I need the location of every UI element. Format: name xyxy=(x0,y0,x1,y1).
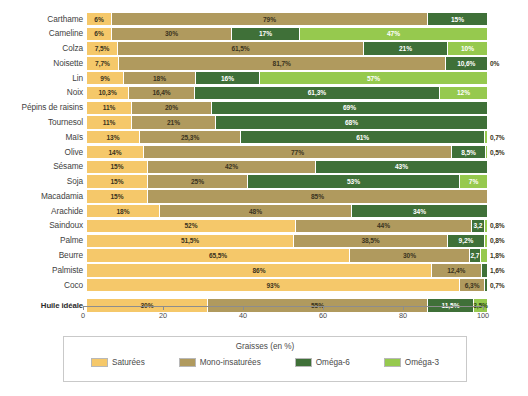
segment-value-label: 65,5% xyxy=(209,252,227,259)
chart-row: Lin9%18%16%57% xyxy=(0,71,528,85)
bar-segments: 11%20%69% xyxy=(87,102,487,114)
bar-segment-saturated: 14% xyxy=(87,146,143,158)
bar-segment-saturated: 11% xyxy=(87,116,131,128)
bar-segments: 14%77%8,5% xyxy=(87,146,487,158)
stacked-bar: 86%12,4%1,6% xyxy=(87,264,487,276)
bar-segment-saturated: 15% xyxy=(87,175,147,187)
x-axis-tick xyxy=(83,306,84,310)
x-axis-tick xyxy=(403,306,404,310)
bar-segment-monounsaturated: 18% xyxy=(123,72,195,84)
legend-item[interactable]: Oméga-6 xyxy=(295,358,350,367)
chart-row: Carthame6%79%15% xyxy=(0,12,528,26)
bar-segment-omega3 xyxy=(480,249,487,261)
segment-value-label: 9,2% xyxy=(459,237,474,244)
stacked-bar: 13%25,3%61%0,7% xyxy=(87,131,487,143)
segment-value-label: 13% xyxy=(107,134,120,141)
legend-title: Graisses (en %) xyxy=(64,342,466,351)
category-label: Lin xyxy=(0,74,87,83)
outside-value-label: 1,6% xyxy=(490,264,505,276)
x-axis-tick-label: 20 xyxy=(159,311,167,320)
chart-row: Olive14%77%8,5%0,5% xyxy=(0,145,528,159)
segment-value-label: 47% xyxy=(387,30,400,37)
stacked-bar: 93%6,3%0,7% xyxy=(87,279,487,291)
outside-value-label: 0,8% xyxy=(490,235,505,247)
category-label: Olive xyxy=(0,148,87,157)
stacked-bar: 11%20%69% xyxy=(87,102,487,114)
chart-row: Colza7,5%61,5%21%10% xyxy=(0,42,528,56)
bar-segment-saturated: 65,5% xyxy=(87,249,349,261)
segment-value-label: 7,7% xyxy=(95,60,110,67)
bar-segment-saturated: 7,7% xyxy=(87,57,118,69)
category-label: Carthame xyxy=(0,15,87,24)
legend-label: Mono-insaturées xyxy=(200,358,261,367)
bar-segments: 10,3%16,4%61,3%12% xyxy=(87,87,487,99)
bar-segments: 9%18%16%57% xyxy=(87,72,487,84)
x-axis-tick-label: 0 xyxy=(81,311,85,320)
stacked-bar: 15%85% xyxy=(87,190,487,202)
segment-value-label: 10,6% xyxy=(457,60,475,67)
plot-area: Carthame6%79%15%Cameline6%30%17%47%Colza… xyxy=(0,12,528,313)
chart-row: Cameline6%30%17%47% xyxy=(0,27,528,41)
segment-value-label: 18% xyxy=(117,208,130,215)
segment-value-label: 93% xyxy=(267,282,280,289)
segment-value-label: 53% xyxy=(347,178,360,185)
bar-segment-monounsaturated: 77% xyxy=(143,146,451,158)
legend-item[interactable]: Saturées xyxy=(91,358,145,367)
outside-value-label: 0% xyxy=(490,57,499,69)
bar-segment-omega3 xyxy=(484,220,487,232)
bar-segments: 86%12,4% xyxy=(87,264,487,276)
segment-value-label: 7,5% xyxy=(95,45,110,52)
chart-row: Noisette7,7%81,7%10,6%0% xyxy=(0,56,528,70)
legend-label: Oméga-3 xyxy=(405,358,439,367)
outside-value-label: 1,8% xyxy=(490,249,505,261)
legend-item[interactable]: Mono-insaturées xyxy=(179,358,261,367)
bar-segment-saturated: 18% xyxy=(87,205,159,217)
outside-value-label: 0,7% xyxy=(490,279,505,291)
legend-item[interactable]: Oméga-3 xyxy=(384,358,439,367)
bar-segment-monounsaturated: 30% xyxy=(111,28,231,40)
bar-segment-monounsaturated: 38,5% xyxy=(293,235,447,247)
segment-value-label: 69% xyxy=(343,104,356,111)
category-label: Tournesol xyxy=(0,118,87,127)
outside-value-label: 0,8% xyxy=(490,220,505,232)
chart-row: Soja15%25%53%7% xyxy=(0,175,528,189)
bar-segments: 15%42%43% xyxy=(87,161,487,173)
segment-value-label: 42% xyxy=(225,163,238,170)
x-axis-tick xyxy=(483,306,484,310)
chart-row: Maïs13%25,3%61%0,7% xyxy=(0,130,528,144)
category-label: Beurre xyxy=(0,251,87,260)
bar-segment-monounsaturated: 21% xyxy=(131,116,215,128)
stacked-bar: 7,7%81,7%10,6%0% xyxy=(87,57,487,69)
segment-value-label: 12% xyxy=(457,89,470,96)
stacked-bar: 18%48%34% xyxy=(87,205,487,217)
bar-segment-omega6: 9,2% xyxy=(447,235,484,247)
segment-value-label: 6,3% xyxy=(465,282,480,289)
category-label: Maïs xyxy=(0,133,87,142)
bar-segments: 7,5%61,5%21%10% xyxy=(87,42,487,54)
x-axis-tick xyxy=(323,306,324,310)
bar-segment-monounsaturated: 25,3% xyxy=(139,131,240,143)
bar-segment-omega6: 21% xyxy=(363,42,447,54)
bar-segment-monounsaturated: 30% xyxy=(349,249,469,261)
segment-value-label: 11% xyxy=(103,104,116,111)
chart-row: Macadamia15%85% xyxy=(0,189,528,203)
outside-value-label: 0,7% xyxy=(490,131,505,143)
color-swatch-icon xyxy=(179,358,196,367)
bar-segment-saturated: 10,3% xyxy=(87,87,128,99)
bar-segment-omega3: 47% xyxy=(299,28,487,40)
segment-value-label: 81,7% xyxy=(273,60,291,67)
x-axis-tick xyxy=(243,306,244,310)
color-swatch-icon xyxy=(295,358,312,367)
color-swatch-icon xyxy=(91,358,108,367)
bar-segment-omega6 xyxy=(484,279,487,291)
bar-segment-saturated: 15% xyxy=(87,190,147,202)
segment-value-label: 15% xyxy=(111,193,124,200)
segment-value-label: 43% xyxy=(395,163,408,170)
bar-segment-omega6 xyxy=(481,264,487,276)
stacked-bar: 6%30%17%47% xyxy=(87,28,487,40)
segment-value-label: 61,5% xyxy=(231,45,249,52)
segment-value-label: 30% xyxy=(165,30,178,37)
stacked-bar: 11%21%68% xyxy=(87,116,487,128)
segment-value-label: 57% xyxy=(367,75,380,82)
segment-value-label: 17% xyxy=(259,30,272,37)
